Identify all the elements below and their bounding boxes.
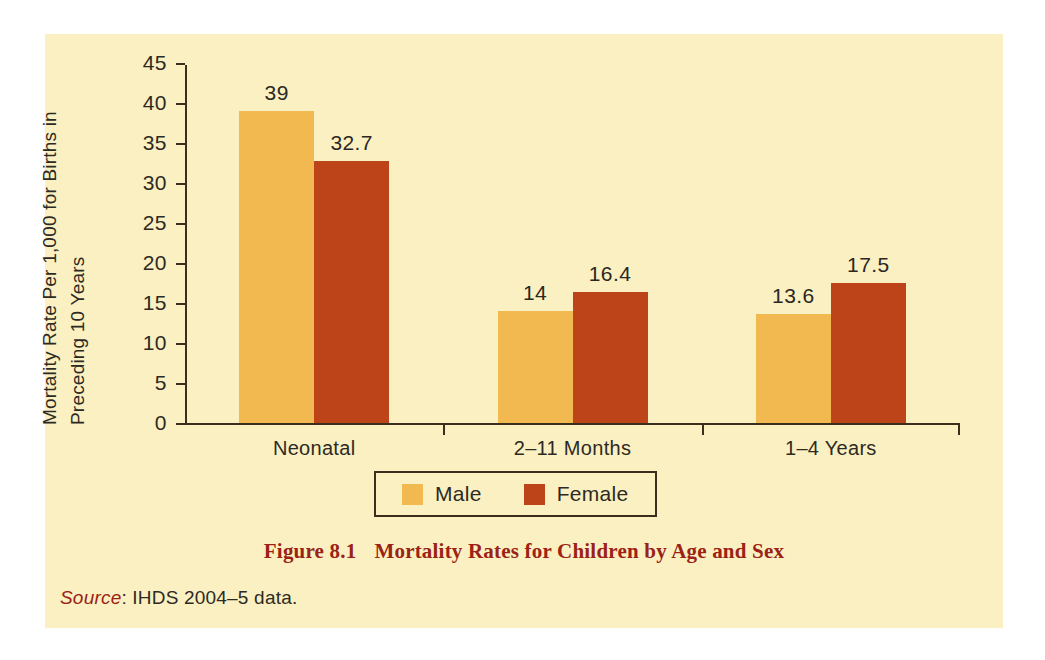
source-text: : IHDS 2004–5 data.	[121, 587, 297, 608]
y-axis-tick-label: 10	[143, 331, 167, 355]
y-axis-tick: 20	[176, 263, 185, 265]
y-axis-tick-label: 40	[143, 91, 167, 115]
bar-male-2: 14	[498, 311, 573, 423]
y-axis-tick: 5	[176, 383, 185, 385]
x-axis-tick	[702, 425, 704, 435]
figure-caption-text: Mortality Rates for Children by Age and …	[374, 539, 784, 563]
y-axis-tick-label: 0	[155, 411, 167, 435]
bar-male-3: 13.6	[756, 314, 831, 423]
y-axis-tick: 30	[176, 183, 185, 185]
legend-swatch-male	[402, 484, 423, 505]
bar-value-label: 16.4	[589, 262, 631, 286]
category-label: 1–4 Years	[785, 437, 877, 460]
bar-value-label: 14	[523, 281, 547, 305]
y-axis-title-line-2: Preceding 10 Years	[67, 257, 89, 425]
y-axis-tick: 10	[176, 343, 185, 345]
bar-value-label: 39	[265, 81, 289, 105]
y-axis-tick-label: 20	[143, 251, 167, 275]
y-axis-tick-label: 35	[143, 131, 167, 155]
bar-female-2: 16.4	[573, 292, 648, 423]
category-label: Neonatal	[273, 437, 355, 460]
y-axis-tick: 25	[176, 223, 185, 225]
figure-caption: Figure 8.1Mortality Rates for Children b…	[45, 539, 1003, 564]
y-axis-tick: 15	[176, 303, 185, 305]
bar-female-1: 32.7	[314, 161, 389, 423]
y-axis-tick: 35	[176, 143, 185, 145]
bar-value-label: 17.5	[847, 253, 889, 277]
y-axis-title-line-1: Mortality Rate Per 1,000 for Births in	[39, 111, 61, 425]
y-axis-line	[185, 65, 187, 425]
plot-area: 051015202530354045 3932.71416.413.617.5 …	[185, 65, 960, 425]
legend-entry-female: Female	[524, 482, 629, 506]
bar-female-3: 17.5	[831, 283, 906, 423]
legend-swatch-female	[524, 484, 545, 505]
y-axis-tick-label: 45	[143, 51, 167, 75]
y-axis-tick: 40	[176, 103, 185, 105]
bar-value-label: 32.7	[330, 131, 372, 155]
y-axis-tick-label: 5	[155, 371, 167, 395]
category-label: 2–11 Months	[514, 437, 631, 460]
y-axis-tick: 45	[176, 63, 185, 65]
y-axis-tick-label: 15	[143, 291, 167, 315]
legend-label: Female	[557, 482, 629, 506]
x-axis-tick	[958, 425, 960, 435]
source-label: Source	[60, 587, 121, 608]
bar-male-1: 39	[239, 111, 314, 423]
figure-source: Source: IHDS 2004–5 data.	[60, 587, 297, 609]
x-axis-tick	[443, 425, 445, 435]
legend-entry-male: Male	[402, 482, 482, 506]
y-axis-title: Mortality Rate Per 1,000 for Births in P…	[59, 65, 117, 425]
y-axis-tick-label: 30	[143, 171, 167, 195]
figure-panel: Mortality Rate Per 1,000 for Births in P…	[45, 34, 1003, 628]
x-axis-line	[185, 423, 960, 425]
chart-legend: MaleFemale	[374, 471, 657, 517]
y-axis-tick-label: 25	[143, 211, 167, 235]
y-axis-tick: 0	[176, 423, 185, 425]
bar-value-label: 13.6	[772, 284, 814, 308]
legend-label: Male	[435, 482, 482, 506]
figure-caption-number: Figure 8.1	[264, 539, 357, 563]
